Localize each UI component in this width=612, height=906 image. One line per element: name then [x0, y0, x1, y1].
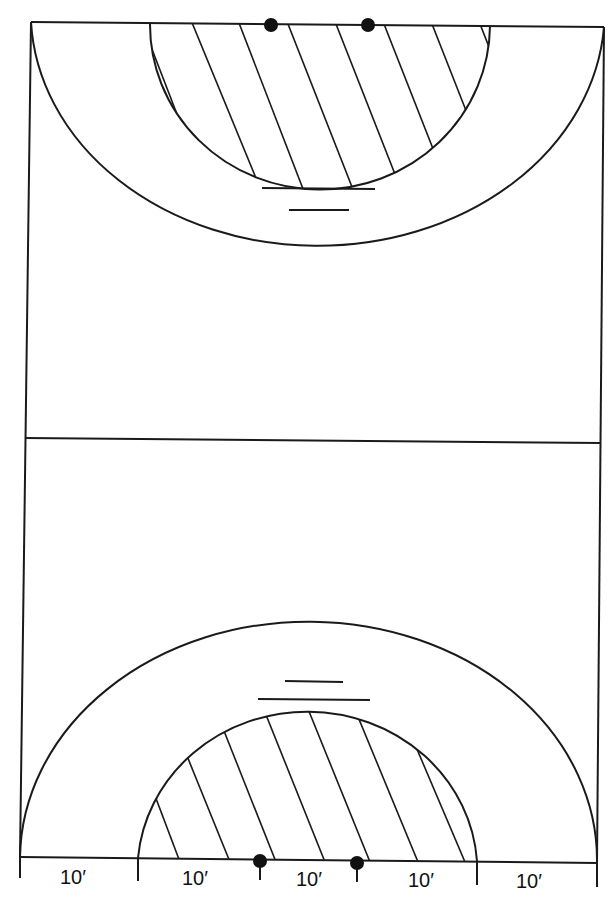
top-goal-post-left — [264, 18, 278, 32]
dimension-label: 10′ — [516, 870, 542, 892]
dimension-label: 10′ — [60, 866, 86, 888]
center-line — [25, 438, 601, 443]
dimension-label: 10′ — [182, 867, 208, 889]
bottom-restraining-line — [258, 699, 370, 700]
bottom-end-line — [20, 857, 597, 863]
dimension-label: 10′ — [408, 869, 434, 891]
bottom-outer-arc — [20, 622, 597, 863]
bottom-inner-arc — [138, 712, 477, 861]
left-side-line — [20, 22, 31, 857]
bottom-hatching — [100, 620, 515, 862]
bottom-half — [20, 620, 597, 882]
top-goal-post-right — [361, 18, 375, 32]
court-outline — [20, 22, 604, 863]
right-side-line — [597, 27, 604, 863]
top-outer-arc — [31, 22, 604, 246]
top-half — [31, 0, 604, 246]
court-diagram: 10′ 10′ 10′ 10′ 10′ — [0, 0, 612, 906]
top-restraining-line — [262, 188, 375, 189]
bottom-penalty-mark — [285, 681, 343, 682]
dimension-label: 10′ — [296, 868, 322, 890]
dimension-labels: 10′ 10′ 10′ 10′ 10′ — [60, 866, 542, 892]
bottom-goal-post-left — [253, 854, 267, 868]
bottom-goal-post-right — [350, 856, 364, 870]
top-end-line — [31, 22, 604, 27]
